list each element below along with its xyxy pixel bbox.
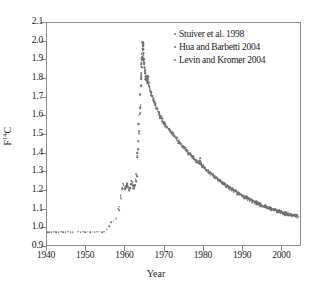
data-point [137, 152, 139, 154]
data-point [139, 94, 141, 96]
data-point [70, 231, 72, 233]
y-axis-title-text: F [2, 140, 13, 146]
data-point [138, 141, 140, 143]
legend-dot-icon [170, 33, 179, 35]
x-axis-tick-label: 1940 [26, 250, 66, 260]
x-axis-tick-label: 2000 [261, 250, 301, 260]
data-point [120, 194, 122, 196]
data-point [99, 231, 101, 233]
legend-item: Hua and Barbetti 2004 [170, 40, 302, 53]
y-axis-tick-label: 1.2 [7, 185, 43, 195]
y-axis-tick-label: 1.7 [7, 92, 43, 102]
x-axis-tick-label: 1970 [144, 250, 184, 260]
legend-label: Hua and Barbetti 2004 [179, 42, 260, 52]
data-point [121, 198, 123, 200]
legend-dot-icon [170, 59, 179, 61]
legend-item: Levin and Kromer 2004 [170, 53, 302, 66]
data-point [144, 67, 146, 69]
data-point [150, 92, 152, 94]
data-point [56, 231, 58, 233]
figure-container: 0.91.01.11.21.31.41.51.61.71.81.92.02.11… [0, 0, 312, 293]
data-point [72, 231, 74, 233]
data-point [128, 189, 130, 191]
y-axis-tick-label: 2.0 [7, 36, 43, 46]
x-axis-tick-label: 1950 [65, 250, 105, 260]
y-axis-tick-label: 1.3 [7, 166, 43, 176]
data-point [142, 55, 144, 57]
data-point [63, 231, 65, 233]
x-axis-tick-label: 1990 [222, 250, 262, 260]
legend-item: Stuiver et al. 1998 [170, 27, 302, 40]
data-point [146, 76, 148, 78]
data-point [144, 58, 146, 60]
data-point [85, 231, 87, 233]
y-axis-title: F14C [1, 116, 13, 156]
y-axis-tick-label: 1.1 [7, 204, 43, 214]
data-point [58, 231, 60, 233]
data-point [108, 226, 110, 228]
data-point [51, 231, 53, 233]
data-point [132, 181, 134, 183]
data-point [103, 231, 105, 233]
data-point [140, 77, 142, 79]
data-point [115, 218, 117, 220]
data-point [142, 45, 144, 47]
y-axis-tick-label: 1.9 [7, 54, 43, 64]
data-point [143, 61, 145, 63]
data-point [140, 86, 142, 88]
legend-label: Levin and Kromer 2004 [179, 55, 265, 65]
data-point [49, 231, 51, 233]
data-point [139, 113, 141, 115]
data-point [138, 130, 140, 132]
x-axis-title: Year [0, 268, 312, 279]
chart-legend: Stuiver et al. 1998Hua and Barbetti 2004… [170, 27, 302, 66]
data-point [101, 231, 103, 233]
data-point [136, 157, 138, 159]
data-point [82, 231, 84, 233]
data-point [133, 188, 135, 190]
data-point [155, 104, 157, 106]
data-point [65, 231, 67, 233]
data-point [60, 231, 62, 233]
data-point [140, 63, 142, 65]
data-point [106, 228, 108, 230]
data-point [122, 183, 124, 185]
data-point [135, 180, 137, 182]
data-point [118, 209, 120, 211]
data-point [111, 222, 113, 224]
y-axis-tick-label: 1.8 [7, 73, 43, 83]
x-axis-tick-label: 1980 [183, 250, 223, 260]
data-point [199, 159, 201, 161]
data-point [134, 184, 136, 186]
data-point [140, 74, 142, 76]
legend-dot-icon [170, 46, 179, 48]
data-point [139, 107, 141, 109]
data-point [129, 187, 131, 189]
data-point [142, 49, 144, 51]
data-point [80, 231, 82, 233]
data-point [53, 231, 55, 233]
data-point [67, 231, 69, 233]
data-point [151, 95, 153, 97]
y-axis-title-tail: C [2, 127, 13, 134]
data-point [113, 220, 115, 222]
legend-label: Stuiver et al. 1998 [179, 29, 244, 39]
data-point [161, 118, 163, 120]
data-point [136, 155, 138, 157]
data-point [297, 216, 299, 218]
data-point [146, 79, 148, 81]
data-point [87, 231, 89, 233]
y-axis-tick-label: 1.0 [7, 222, 43, 232]
data-point [149, 82, 151, 84]
data-point [138, 133, 140, 135]
data-point [140, 104, 142, 106]
data-point [94, 231, 96, 233]
data-point [137, 148, 139, 150]
data-point [138, 115, 140, 117]
data-point [92, 231, 94, 233]
data-point [96, 231, 98, 233]
data-point [157, 109, 159, 111]
data-point [136, 175, 138, 177]
y-axis-title-superscript: 14 [1, 133, 8, 140]
data-point [78, 231, 80, 233]
